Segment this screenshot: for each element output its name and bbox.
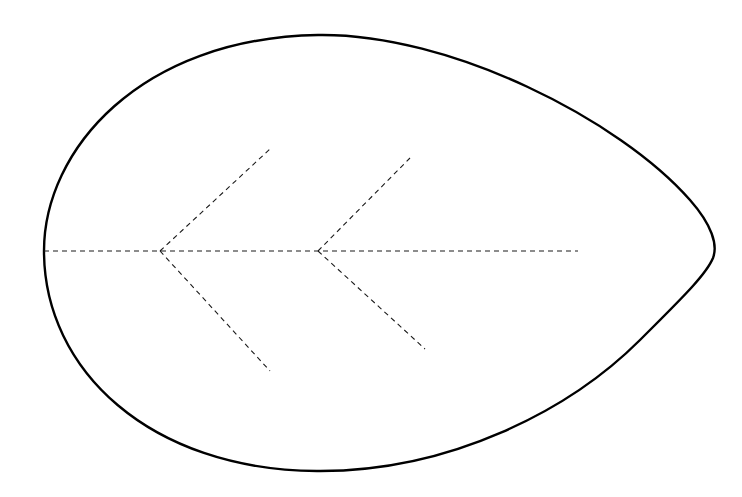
leaf-vein-upper-1 [160,149,270,251]
leaf-vein-upper-2 [318,158,410,251]
leaf-vein-lower-2 [318,251,425,349]
leaf-outline [44,35,715,471]
leaf-vein-lower-1 [160,251,270,371]
diagram-canvas [0,0,742,497]
leaf-diagram [0,0,742,497]
